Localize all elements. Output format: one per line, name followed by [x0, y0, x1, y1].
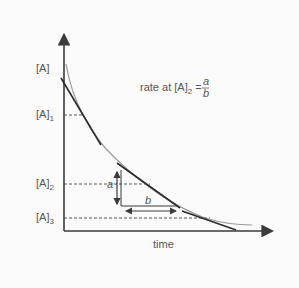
tangent-1 [61, 78, 101, 145]
rate-annotation: rate at [A]2 = [140, 81, 202, 96]
tick-a2: [A]2 [36, 177, 54, 192]
y-axis-label: [A] [36, 62, 49, 74]
label-a: a [107, 178, 113, 190]
label-b: b [145, 194, 151, 206]
tangent-3 [182, 211, 236, 230]
tick-a3: [A]3 [36, 211, 54, 226]
tick-a1: [A]1 [36, 108, 54, 123]
x-axis-label: time [153, 238, 174, 250]
fraction-numerator: a [203, 75, 209, 87]
rate-diagram: [A] [A]1 [A]2 [A]3 rate at [A]2 = a b a … [0, 0, 299, 288]
diagram-svg: [A] [A]1 [A]2 [A]3 rate at [A]2 = a b a … [0, 0, 299, 288]
fraction-denominator: b [203, 87, 209, 99]
